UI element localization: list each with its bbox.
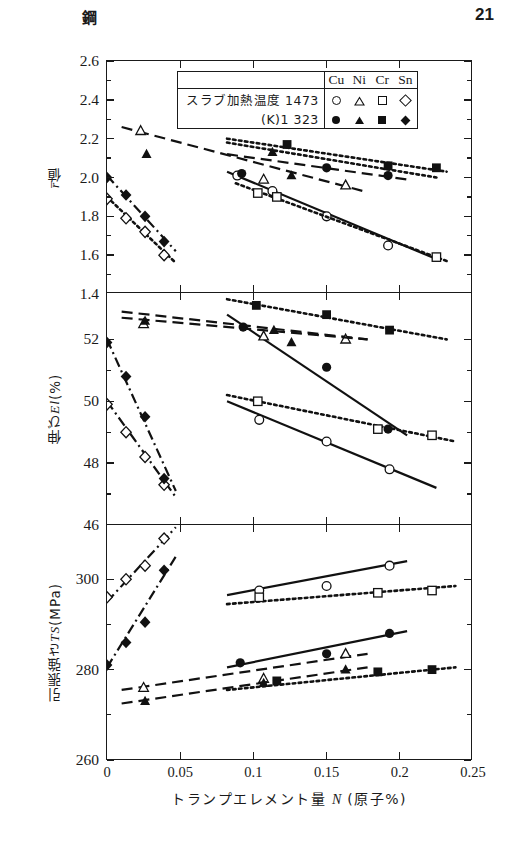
x-tick bbox=[399, 517, 400, 524]
x-tick bbox=[180, 517, 181, 524]
y-tick-label: 2.4 bbox=[80, 91, 99, 109]
x-tick bbox=[180, 61, 181, 68]
y-minor-tick bbox=[107, 119, 111, 120]
series-sn-1473 bbox=[107, 193, 176, 263]
plot-area-2 bbox=[107, 293, 471, 524]
x-tick-label: 0.1 bbox=[244, 764, 262, 781]
x-tick bbox=[326, 285, 327, 292]
y-tick bbox=[107, 138, 114, 139]
legend-element-cr: Cr bbox=[371, 72, 394, 89]
y-tick bbox=[107, 462, 114, 463]
y-tick bbox=[107, 216, 114, 217]
x-tick bbox=[253, 61, 254, 68]
legend-marker-cr-filled bbox=[371, 110, 394, 129]
y-tick bbox=[464, 177, 471, 178]
y-minor-tick bbox=[107, 196, 111, 197]
series-cu-1473 bbox=[227, 401, 436, 488]
page-number: 21 bbox=[475, 5, 494, 25]
x-tick bbox=[253, 525, 254, 532]
y-tick-label: 46 bbox=[84, 516, 100, 534]
y-tick bbox=[107, 759, 114, 760]
legend-row1-label: スラブ加熱温度 1473 bbox=[178, 89, 325, 111]
y-minor-tick bbox=[467, 235, 471, 236]
y-minor-tick bbox=[467, 119, 471, 120]
x-tick bbox=[180, 293, 181, 300]
legend-element-ni: Ni bbox=[348, 72, 371, 89]
y-tick bbox=[464, 669, 471, 670]
y-tick bbox=[464, 216, 471, 217]
legend-blank-cell bbox=[178, 72, 325, 89]
x-tick bbox=[399, 285, 400, 292]
y-tick-label: 2.6 bbox=[80, 52, 99, 70]
y-tick-label: 1.8 bbox=[80, 207, 99, 225]
y-tick-label: 48 bbox=[84, 454, 100, 472]
y-tick bbox=[107, 177, 114, 178]
y-minor-tick bbox=[467, 157, 471, 158]
series-sn-1323 bbox=[107, 172, 176, 252]
y-tick-label: 52 bbox=[84, 330, 100, 348]
x-tick bbox=[326, 517, 327, 524]
x-tick-label: 0.25 bbox=[460, 764, 485, 781]
series-cr-1473 bbox=[236, 183, 447, 261]
legend-marker-cu-open bbox=[324, 89, 348, 111]
y-minor-tick bbox=[107, 493, 111, 494]
y-tick bbox=[464, 759, 471, 760]
y-minor-tick bbox=[107, 432, 111, 433]
y-tick bbox=[464, 254, 471, 255]
y-tick-label: 2.0 bbox=[80, 169, 99, 187]
y-axis-title-3: 引張強さ TS(MPa) bbox=[45, 525, 65, 760]
series-cr-1323 bbox=[227, 139, 447, 173]
x-tick bbox=[253, 293, 254, 300]
y-tick-label: 1.6 bbox=[80, 246, 99, 264]
series-sn-1473 bbox=[107, 527, 176, 603]
x-axis-title: トランプエレメント量 N (原子%) bbox=[106, 788, 472, 808]
y-tick bbox=[107, 254, 114, 255]
y-tick bbox=[464, 99, 471, 100]
y-minor-tick bbox=[467, 432, 471, 433]
chart-panel-tensile-strength: 引張強さ TS(MPa) 26028030000.050.10.150.20.2… bbox=[106, 525, 472, 760]
y-tick-label: 50 bbox=[84, 392, 100, 410]
y-minor-tick bbox=[107, 624, 111, 625]
y-minor-tick bbox=[107, 157, 111, 158]
series-cr-1323 bbox=[227, 299, 447, 339]
y-minor-tick bbox=[467, 274, 471, 275]
figure-page: 鋼 21 r̅値 Cu Ni Cr Sn スラブ加熱温度 1473 bbox=[0, 0, 512, 847]
y-tick-label: 280 bbox=[76, 661, 99, 679]
legend-element-cu: Cu bbox=[324, 72, 348, 89]
x-tick bbox=[253, 285, 254, 292]
legend-row2-label: (K)1 323 bbox=[178, 110, 325, 129]
x-tick bbox=[180, 525, 181, 532]
x-tick bbox=[253, 752, 254, 759]
chart-panel-elongation: 伸び El (%) 46485052 bbox=[106, 293, 472, 525]
x-tick-label: 0 bbox=[103, 764, 110, 781]
legend-marker-sn-filled bbox=[394, 110, 418, 129]
y-minor-tick bbox=[107, 274, 111, 275]
y-tick-label: 1.4 bbox=[80, 285, 99, 303]
y-minor-tick bbox=[107, 80, 111, 81]
y-tick bbox=[107, 339, 114, 340]
y-axis-title-2: 伸び El (%) bbox=[45, 293, 65, 525]
legend-element-sn: Sn bbox=[394, 72, 418, 89]
legend-marker-ni-filled bbox=[348, 110, 371, 129]
x-tick bbox=[326, 752, 327, 759]
y-minor-tick bbox=[467, 714, 471, 715]
x-tick bbox=[180, 285, 181, 292]
plot-area-3 bbox=[107, 525, 471, 759]
y-tick-label: 2.2 bbox=[80, 130, 99, 148]
y-axis-title-1: r̅値 bbox=[45, 61, 65, 294]
y-minor-tick bbox=[467, 370, 471, 371]
y-tick bbox=[464, 60, 471, 61]
y-tick bbox=[464, 462, 471, 463]
series-layer bbox=[107, 293, 471, 524]
chart-panel-r-value: r̅値 Cu Ni Cr Sn スラブ加熱温度 1473 (K)1 bbox=[106, 60, 472, 293]
legend-marker-ni-open bbox=[348, 89, 371, 111]
y-tick bbox=[107, 60, 114, 61]
y-tick bbox=[107, 401, 114, 402]
page-header-kanji: 鋼 bbox=[82, 6, 97, 27]
y-tick bbox=[464, 579, 471, 580]
y-minor-tick bbox=[467, 493, 471, 494]
x-tick bbox=[326, 61, 327, 68]
x-tick bbox=[399, 61, 400, 68]
series-sn-1323 bbox=[107, 337, 176, 491]
figure-panels: r̅値 Cu Ni Cr Sn スラブ加熱温度 1473 (K)1 bbox=[106, 60, 472, 760]
